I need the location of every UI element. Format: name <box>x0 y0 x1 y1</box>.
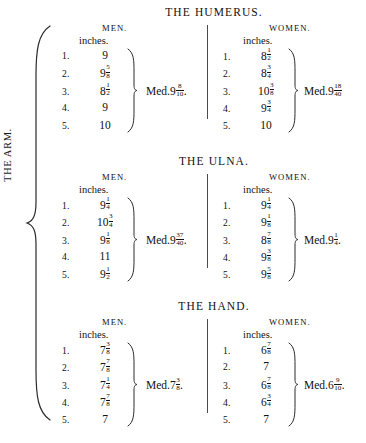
row-index: 3. <box>217 83 243 100</box>
section-title-word: ULNA. <box>209 155 249 167</box>
row-index: 2. <box>56 359 82 376</box>
rows-wrap-women: 1.914 2.918 3.878 4.938 5.958 Med. 914. <box>217 196 358 283</box>
row-value: 11 <box>82 248 128 265</box>
measurement-row: 1.812 <box>217 47 289 64</box>
measurement-list-men: 1.9 2.958 3.812 4.9 5.10 <box>56 47 128 134</box>
row-value: 778 <box>82 358 128 376</box>
measurement-row: 3.918 <box>56 231 128 248</box>
row-index: 1. <box>217 197 243 214</box>
row-index: 1. <box>56 342 82 359</box>
arm-group-label: THE ARM. <box>2 128 13 182</box>
panels-humerus: MEN. inches. 1.9 2.958 3.812 4.9 5.10 <box>56 23 366 134</box>
measurement-row: 5.912 <box>56 266 128 283</box>
column-heading-men: MEN. <box>56 172 207 182</box>
rows-wrap-women: 1.812 2.834 3.1038 4.934 5.10 Med. 91840 <box>217 47 358 134</box>
measurement-row: 1.914 <box>217 196 289 213</box>
median-men: Med. 9810. <box>138 83 207 99</box>
measurement-row: 2.918 <box>217 213 289 230</box>
unit-label-women: inches. <box>217 35 358 46</box>
group-brace-icon <box>288 196 299 283</box>
median-women: Med. 914. <box>299 232 358 248</box>
column-heading-men: MEN. <box>56 317 207 327</box>
section-ulna: THEULNA. MEN. inches. 1.914 2.1034 3.918… <box>56 155 366 283</box>
row-value: 958 <box>243 266 289 284</box>
measurement-row: 4.934 <box>217 99 289 116</box>
column-heading-women: WOMEN. <box>217 172 358 182</box>
row-value: 812 <box>243 47 289 65</box>
measurement-row: 3.1038 <box>217 82 289 99</box>
row-value: 10 <box>82 117 128 134</box>
row-value: 918 <box>243 213 289 231</box>
arm-group-brace-icon <box>24 24 54 422</box>
row-value: 678 <box>243 376 289 394</box>
section-title-word: HUMERUS. <box>195 6 263 18</box>
section-title-word: HAND. <box>208 300 250 312</box>
measurement-list-men: 1.738 2.778 3.714 4.778 5.7 <box>56 341 128 428</box>
column-heading-women: WOMEN. <box>217 23 358 33</box>
row-index: 3. <box>56 232 82 249</box>
rows-wrap-men: 1.738 2.778 3.714 4.778 5.7 Med. 738. <box>56 341 207 428</box>
row-value: 714 <box>82 376 128 394</box>
row-index: 5. <box>56 117 82 134</box>
row-value: 7 <box>243 358 289 375</box>
row-index: 2. <box>217 358 243 375</box>
section-humerus: THEHUMERUS. MEN. inches. 1.9 2.958 3.812… <box>56 6 366 134</box>
measurement-row: 5.7 <box>217 411 289 428</box>
measurement-row: 5.10 <box>217 117 289 134</box>
measurement-row: 2.778 <box>56 358 128 375</box>
row-index: 2. <box>56 65 82 82</box>
measurement-row: 3.812 <box>56 82 128 99</box>
unit-label-women: inches. <box>217 329 358 340</box>
row-value: 10 <box>243 117 289 134</box>
group-brace-icon <box>127 341 138 428</box>
row-value: 912 <box>82 266 128 284</box>
section-title-word: THE <box>178 300 204 312</box>
median-women: Med. 6910. <box>299 377 358 393</box>
measurement-row: 5.7 <box>56 411 128 428</box>
panels-ulna: MEN. inches. 1.914 2.1034 3.918 4.11 5.9… <box>56 172 366 283</box>
measurement-row: 4.938 <box>217 248 289 265</box>
row-value: 938 <box>243 248 289 266</box>
measurement-row: 1.9 <box>56 47 128 64</box>
row-index: 4. <box>217 394 243 411</box>
row-index: 4. <box>56 394 82 411</box>
measurement-row: 5.958 <box>217 266 289 283</box>
measurement-list-men: 1.914 2.1034 3.918 4.11 5.912 <box>56 196 128 283</box>
row-value: 914 <box>243 196 289 214</box>
row-index: 1. <box>56 197 82 214</box>
unit-label-women: inches. <box>217 184 358 195</box>
row-value: 958 <box>82 64 128 82</box>
row-value: 1038 <box>243 82 289 100</box>
row-value: 878 <box>243 231 289 249</box>
panel-women-humerus: WOMEN. inches. 1.812 2.834 3.1038 4.934 … <box>207 23 358 134</box>
panel-men-ulna: MEN. inches. 1.914 2.1034 3.918 4.11 5.9… <box>56 172 207 283</box>
group-brace-icon <box>288 47 299 134</box>
measurement-row: 4.11 <box>56 248 128 265</box>
measurement-row: 5.10 <box>56 117 128 134</box>
row-value: 738 <box>82 341 128 359</box>
measurement-row: 2.834 <box>217 64 289 81</box>
median-men: Med. 738. <box>138 377 207 393</box>
row-value: 678 <box>243 341 289 359</box>
row-index: 5. <box>217 266 243 283</box>
panel-men-hand: MEN. inches. 1.738 2.778 3.714 4.778 5.7 <box>56 317 207 428</box>
row-value: 834 <box>243 64 289 82</box>
measurement-row: 2.1034 <box>56 213 128 230</box>
measurement-row: 3.714 <box>56 376 128 393</box>
section-title-hand: THEHAND. <box>56 300 366 312</box>
measurement-row: 1.738 <box>56 341 128 358</box>
row-index: 5. <box>56 266 82 283</box>
measurement-row: 3.878 <box>217 231 289 248</box>
measurements-table-page: THE ARM. THEHUMERUS. MEN. inches. 1.9 2.… <box>0 0 366 443</box>
panels-hand: MEN. inches. 1.738 2.778 3.714 4.778 5.7 <box>56 317 366 428</box>
unit-label-men: inches. <box>56 329 207 340</box>
row-value: 918 <box>82 231 128 249</box>
row-index: 3. <box>56 377 82 394</box>
row-index: 5. <box>56 411 82 428</box>
column-heading-women: WOMEN. <box>217 317 358 327</box>
measurement-row: 4.634 <box>217 393 289 410</box>
row-value: 7 <box>243 411 289 428</box>
median-men: Med. 93740. <box>138 232 207 248</box>
group-brace-icon <box>127 196 138 283</box>
panel-women-hand: WOMEN. inches. 1.678 2.7 3.678 4.634 5.7 <box>207 317 358 428</box>
